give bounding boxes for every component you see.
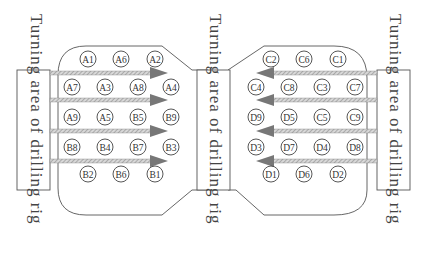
hole-label: D8 xyxy=(349,143,361,153)
hole-label: D9 xyxy=(250,113,262,123)
hole-label: D7 xyxy=(283,143,295,153)
hole-label: B2 xyxy=(82,170,93,180)
hole-label: A1 xyxy=(82,55,94,65)
hole-label: A4 xyxy=(165,83,177,93)
hole-label: C9 xyxy=(349,113,360,123)
hole-label: B1 xyxy=(149,170,160,180)
hole-label: A9 xyxy=(66,113,78,123)
hole-label: D5 xyxy=(283,113,295,123)
hole-label: B5 xyxy=(132,113,143,123)
hole-label: A5 xyxy=(99,113,111,123)
middle-turning-area-label: Turning area of drilling rig xyxy=(205,14,225,225)
right-turning-area-label: Turning area of drilling rig xyxy=(385,14,405,225)
hole-label: C2 xyxy=(265,55,276,65)
hole-label: B3 xyxy=(165,143,176,153)
hole-label: D6 xyxy=(298,170,310,180)
hole-label: A3 xyxy=(99,83,111,93)
hole-label: C7 xyxy=(349,83,360,93)
hole-label: B9 xyxy=(165,113,176,123)
hole-label: D4 xyxy=(316,143,328,153)
hole-label: C3 xyxy=(316,83,327,93)
hole-label: C5 xyxy=(316,113,327,123)
hole-label: B7 xyxy=(132,143,143,153)
hole-label: D3 xyxy=(250,143,262,153)
hole-label: B4 xyxy=(99,143,110,153)
hole-label: A2 xyxy=(149,55,161,65)
hole-label: B6 xyxy=(115,170,126,180)
hole-label: D1 xyxy=(265,170,277,180)
hole-label: B8 xyxy=(66,143,77,153)
hole-label: C1 xyxy=(332,55,343,65)
hole-label: A6 xyxy=(115,55,127,65)
hole-label: C8 xyxy=(283,83,294,93)
hole-label: C6 xyxy=(298,55,309,65)
hole-label: C4 xyxy=(250,83,261,93)
hole-label: D2 xyxy=(332,170,344,180)
hole-label: A7 xyxy=(66,83,78,93)
hole-label: A8 xyxy=(132,83,144,93)
left-turning-area-label: Turning area of drilling rig xyxy=(26,14,46,225)
